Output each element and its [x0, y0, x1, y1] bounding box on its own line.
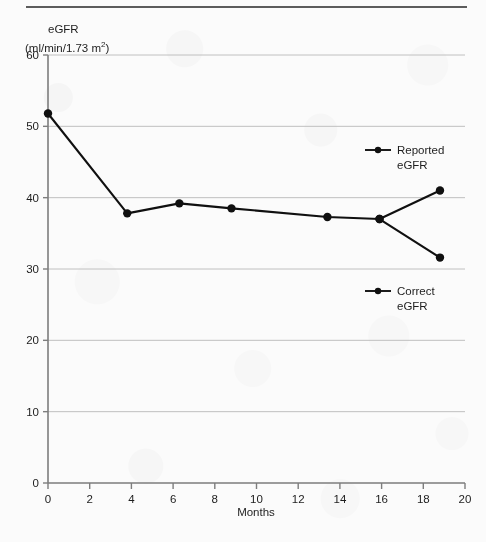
y-tick-label: 20: [26, 334, 39, 346]
series-line-0: [48, 113, 440, 219]
legend-marker-dot-correct: [375, 288, 381, 294]
legend-label-correct-line2: eGFR: [397, 300, 428, 312]
data-point-0-6: [436, 186, 444, 194]
legend-item-correct: Correct eGFR: [365, 285, 436, 312]
y-tick-label: 40: [26, 192, 39, 204]
x-axis-ticks: 02468101214161820: [45, 483, 472, 505]
y-tick-label: 0: [33, 477, 39, 489]
y-tick-label: 50: [26, 120, 39, 132]
x-tick-label: 12: [292, 493, 305, 505]
legend-label-reported-line2: eGFR: [397, 159, 428, 171]
x-tick-label: 8: [212, 493, 218, 505]
figure-panel: eGFR (ml/min/1.73 m2) 0102030405060 0246…: [0, 0, 486, 542]
x-tick-label: 16: [375, 493, 388, 505]
data-point-1-1: [436, 253, 444, 261]
x-tick-label: 4: [128, 493, 135, 505]
y-tick-label: 10: [26, 406, 39, 418]
legend-marker-dot-reported: [375, 147, 381, 153]
data-point-0-3: [227, 204, 235, 212]
data-point-1-0: [375, 215, 383, 223]
x-axis-title: Months: [237, 506, 275, 518]
data-point-0-0: [44, 109, 52, 117]
line-chart: 0102030405060 02468101214161820 Months R…: [0, 0, 486, 542]
x-tick-label: 0: [45, 493, 51, 505]
data-series-group: [44, 109, 444, 261]
x-tick-label: 2: [86, 493, 92, 505]
data-point-0-1: [123, 209, 131, 217]
data-point-0-2: [175, 199, 183, 207]
legend-label-correct-line1: Correct: [397, 285, 436, 297]
series-line-1: [380, 219, 440, 258]
y-tick-label: 30: [26, 263, 39, 275]
y-tick-label: 60: [26, 49, 39, 61]
x-tick-label: 18: [417, 493, 430, 505]
x-tick-label: 6: [170, 493, 176, 505]
legend-label-reported-line1: Reported: [397, 144, 444, 156]
x-tick-label: 10: [250, 493, 263, 505]
x-tick-label: 20: [459, 493, 472, 505]
legend-item-reported: Reported eGFR: [365, 144, 444, 171]
x-tick-label: 14: [334, 493, 347, 505]
data-point-0-4: [323, 213, 331, 221]
